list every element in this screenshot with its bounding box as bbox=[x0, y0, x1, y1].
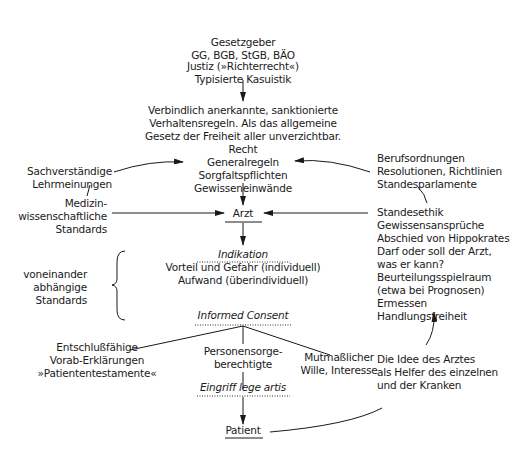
ideal-line: und der Kranken bbox=[377, 379, 498, 392]
procedure-node: Eingriff lege artis bbox=[200, 381, 286, 394]
professional-ethics-node: Standesethik Gewissensansprüche Abschied… bbox=[377, 206, 509, 323]
justice-line: Justiz (»Richterrecht«) bbox=[187, 60, 299, 73]
law-title: Recht bbox=[145, 143, 341, 156]
law-definition-line: Gesetz der Freiheit aller unverzichtbar. bbox=[145, 130, 341, 143]
law-line: Sorgfaltspflichten bbox=[145, 169, 341, 182]
professional-line: Berufsordnungen bbox=[377, 152, 502, 165]
interdependent-line: voneinander bbox=[23, 268, 87, 281]
patient-node: Patient bbox=[225, 424, 260, 437]
law-definition-node: Verbindlich anerkannte, sanktionierte Ve… bbox=[145, 104, 341, 195]
advance-line: Entschlußfähige bbox=[38, 341, 157, 354]
medical-line: Medizin- bbox=[18, 197, 107, 210]
informed-consent-title: Informed Consent bbox=[198, 309, 289, 322]
doctor-ideal-node: Die Idee des Arztes als Helfer des einze… bbox=[377, 353, 498, 392]
ethics-line: Handlungsfreiheit bbox=[377, 310, 509, 323]
justice-node: Justiz (»Richterrecht«) Typisierte Kasui… bbox=[187, 60, 299, 86]
interdependent-line: Standards bbox=[23, 294, 87, 307]
ethics-line: Standesethik bbox=[377, 206, 509, 219]
law-line: Gewisseneinwände bbox=[145, 182, 341, 195]
indication-title: Indikation bbox=[166, 248, 321, 261]
indication-node: Indikation Vorteil und Gefahr (individue… bbox=[166, 248, 321, 287]
professional-rules-node: Berufsordnungen Resolutionen, Richtlinie… bbox=[377, 152, 502, 191]
indication-line: Vorteil und Gefahr (individuell) bbox=[166, 261, 321, 274]
interdependent-standards-node: voneinander abhängige Standards bbox=[23, 268, 87, 307]
ethics-line: was er kann? bbox=[377, 258, 509, 271]
informed-consent-node: Informed Consent bbox=[198, 309, 289, 322]
advance-line: »Patiententestamente« bbox=[38, 367, 157, 380]
casuistry-line: Typisierte Kasuistik bbox=[187, 73, 299, 86]
ideal-line: als Helfer des einzelnen bbox=[377, 366, 498, 379]
medical-line: wissenschaftliche bbox=[18, 210, 107, 223]
expert-opinions-node: Sachverständige Lehrmeinungen bbox=[27, 165, 112, 191]
connector-patient-ideal bbox=[270, 408, 382, 432]
expert-line: Sachverständige bbox=[27, 165, 112, 178]
interdependent-line: abhängige bbox=[23, 281, 87, 294]
advance-line: Vorab-Erklärungen bbox=[38, 354, 157, 367]
medical-line: Standards bbox=[18, 223, 107, 236]
professional-line: Resolutionen, Richtlinien bbox=[377, 165, 502, 178]
ideal-line: Die Idee des Arztes bbox=[377, 353, 498, 366]
law-definition-line: Verhaltensregeln. Als das allgemeine bbox=[145, 117, 341, 130]
law-line: Generalregeln bbox=[145, 156, 341, 169]
doctor-label: Arzt bbox=[233, 207, 253, 220]
professional-line: Standesparlamente bbox=[377, 178, 502, 191]
expert-line: Lehrmeinungen bbox=[27, 178, 112, 191]
guardians-node: Personensorge- berechtigte bbox=[204, 345, 283, 371]
advance-directives-node: Entschlußfähige Vorab-Erklärungen »Patie… bbox=[38, 341, 157, 380]
doctor-node: Arzt bbox=[233, 207, 253, 220]
ethics-line: Abschied von Hippokrates bbox=[377, 232, 509, 245]
medical-standards-node: Medizin- wissenschaftliche Standards bbox=[18, 197, 107, 236]
presumed-will-node: Mutmaßlicher Wille, Interesse bbox=[300, 351, 377, 377]
procedure-title: Eingriff lege artis bbox=[200, 381, 286, 394]
patient-label: Patient bbox=[225, 424, 260, 437]
ethics-line: Ermessen bbox=[377, 297, 509, 310]
ethics-line: Beurteilungsspielraum bbox=[377, 271, 509, 284]
ethics-line: Darf oder soll der Arzt, bbox=[377, 245, 509, 258]
lawmaker-node: Gesetzgeber GG, BGB, StGB, BÄO bbox=[191, 36, 295, 62]
presumed-line: Wille, Interesse bbox=[300, 364, 377, 377]
ethics-line: (etwa bei Prognosen) bbox=[377, 284, 509, 297]
brace bbox=[112, 251, 125, 320]
guardians-line: Personensorge- bbox=[204, 345, 283, 358]
presumed-line: Mutmaßlicher bbox=[300, 351, 377, 364]
ethics-line: Gewissensansprüche bbox=[377, 219, 509, 232]
lawmaker-title: Gesetzgeber bbox=[191, 36, 295, 49]
guardians-line: berechtigte bbox=[204, 358, 283, 371]
indication-line: Aufwand (überindividuell) bbox=[166, 274, 321, 287]
law-definition-line: Verbindlich anerkannte, sanktionierte bbox=[145, 104, 341, 117]
